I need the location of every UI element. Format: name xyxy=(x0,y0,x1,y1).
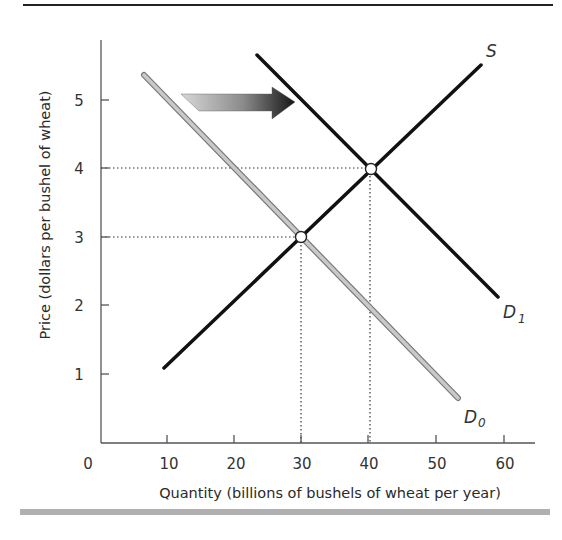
d0-label: D 0 xyxy=(464,407,486,430)
x-axis-title: Quantity (billions of bushels of wheat p… xyxy=(159,485,501,501)
x-tick-label-10: 10 xyxy=(159,455,178,473)
equilibrium-point-new xyxy=(366,164,377,175)
y-tick-label-5: 5 xyxy=(74,92,84,110)
y-tick-label-2: 2 xyxy=(74,297,84,315)
y-tick-label-3: 3 xyxy=(74,229,84,247)
d1-label-sub: 1 xyxy=(518,312,526,326)
supply-demand-chart: 5 4 3 2 1 0 10 20 30 40 50 60 Quantity (… xyxy=(0,0,562,540)
x-tick-label-50: 50 xyxy=(427,455,446,473)
y-tick-label-4: 4 xyxy=(74,160,84,178)
supply-label: S xyxy=(486,41,497,61)
bottom-band xyxy=(20,509,550,515)
x-tick-label-0: 0 xyxy=(83,455,93,473)
x-tick-labels: 0 10 20 30 40 50 60 xyxy=(83,455,514,473)
x-tick-label-30: 30 xyxy=(292,455,311,473)
demand-curve-d1 xyxy=(257,55,498,297)
equilibrium-point-initial xyxy=(296,232,307,243)
x-tick-label-20: 20 xyxy=(226,455,245,473)
d1-label-main: D xyxy=(503,302,516,322)
y-tick-labels: 5 4 3 2 1 xyxy=(74,92,84,384)
y-tick-label-1: 1 xyxy=(74,366,84,384)
d0-label-main: D xyxy=(464,407,477,427)
d1-label: D 1 xyxy=(503,302,526,326)
demand-shift-arrow-icon xyxy=(181,87,295,119)
x-tick-label-40: 40 xyxy=(359,455,378,473)
y-axis-title: Price (dollars per bushel of wheat) xyxy=(37,91,53,340)
x-tick-label-60: 60 xyxy=(495,455,514,473)
d0-label-sub: 0 xyxy=(478,416,486,430)
